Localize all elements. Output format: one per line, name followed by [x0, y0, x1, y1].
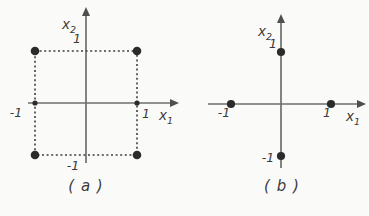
figure-two-coordinate-diagrams: -111-1x1x2-111-1x1x2 ( a ) ( b )	[0, 0, 369, 216]
panel-a-axis-point	[32, 100, 37, 105]
panel-b-caption: ( b )	[252, 177, 312, 195]
panel-a-x-tick-label: -1	[10, 105, 22, 120]
panel-b-x-tick-label: 1	[323, 105, 331, 120]
panel-b-y-tick-label: -1	[262, 150, 274, 165]
panel-a-point	[133, 151, 142, 160]
panel-b-point	[277, 48, 285, 56]
panel-a-y-arrow-icon	[82, 7, 90, 16]
panel-a-x-tick-label: 1	[142, 106, 150, 121]
panel-b-point	[277, 152, 285, 160]
panel-a-x-arrow-icon	[170, 99, 179, 107]
panel-a-caption: ( a )	[56, 177, 116, 195]
panel-a-point	[31, 151, 40, 160]
panel-a-x-axis-label: x1	[158, 107, 173, 126]
panel-b-x-tick-label: -1	[218, 105, 230, 120]
panel-a-axis-point	[134, 100, 139, 105]
panel-b-y-axis-label: x2	[257, 23, 272, 42]
panel-b-x-axis-label: x1	[345, 108, 360, 127]
panel-a-y-tick-label: -1	[67, 158, 79, 173]
panel-a-point	[31, 47, 40, 56]
panel-a-point	[133, 47, 142, 56]
panel-b-x-arrow-icon	[357, 100, 366, 108]
panel-b-y-arrow-icon	[277, 14, 285, 23]
panel-a-y-axis-label: x2	[61, 16, 76, 35]
